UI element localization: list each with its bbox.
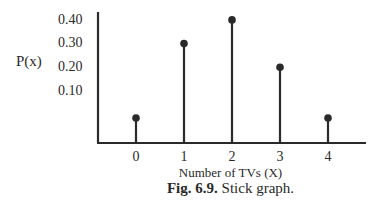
y-tick-0.40: 0.40 [58,13,83,27]
caption-prefix: Fig. 6.9. [167,180,218,196]
y-axis-label: P(x) [16,54,42,69]
figure-caption: Fig. 6.9. Stick graph. [0,180,381,197]
y-tick-0.20: 0.20 [58,60,83,74]
x-tick-1: 1 [174,150,194,164]
x-tick-0: 0 [126,150,146,164]
stick-dot-0 [132,114,140,122]
stick-dot-4 [324,114,332,122]
y-tick-0.10: 0.10 [58,84,83,98]
sticks-group [132,16,332,143]
x-tick-4: 4 [318,150,338,164]
stick-dot-1 [180,40,188,48]
x-axis-label: Number of TVs (X) [0,165,381,181]
stick-dot-2 [228,16,236,24]
x-tick-2: 2 [222,150,242,164]
y-tick-0.30: 0.30 [58,36,83,50]
caption-text: Stick graph. [218,180,294,196]
stick-graph: P(x) 0.40 0.30 0.20 0.10 0 1 2 3 4 Numbe… [0,0,381,207]
x-tick-3: 3 [270,150,290,164]
stick-dot-3 [276,64,284,72]
